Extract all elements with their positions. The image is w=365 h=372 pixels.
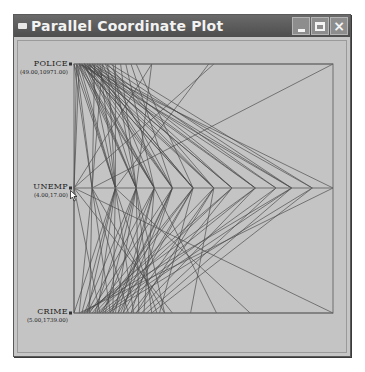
axis-range: (4.00,17.00) xyxy=(8,192,68,198)
axis-name: POLICE xyxy=(8,59,68,68)
axis-name: CRIME xyxy=(8,307,68,316)
axis-label-police[interactable]: POLICE (49.00,10971.00) xyxy=(8,59,68,75)
axis-name: UNEMP xyxy=(8,182,68,191)
axis-handle-icon[interactable] xyxy=(69,312,72,315)
mouse-cursor-icon xyxy=(70,190,78,202)
axis-handle-icon[interactable] xyxy=(69,63,72,66)
axis-range: (5.00,1739.00) xyxy=(8,317,68,323)
axis-label-unemp[interactable]: UNEMP (4.00,17.00) xyxy=(8,182,68,198)
axis-label-crime[interactable]: CRIME (5.00,1739.00) xyxy=(8,307,68,323)
axis-range: (49.00,10971.00) xyxy=(8,69,68,75)
